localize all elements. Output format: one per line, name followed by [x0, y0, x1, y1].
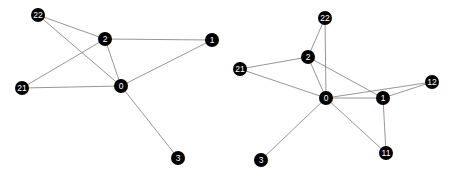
- edges-layer: [22, 15, 432, 160]
- graph-edge: [38, 15, 105, 39]
- graph-edge: [240, 69, 326, 98]
- graph-node[interactable]: 3: [254, 153, 268, 167]
- graph-node[interactable]: 2: [98, 32, 112, 46]
- graph-node[interactable]: 3: [171, 151, 185, 165]
- graph-edge: [240, 57, 308, 69]
- graph-edge: [121, 86, 178, 158]
- graph-node[interactable]: 0: [319, 91, 333, 105]
- graph-canvas: 22212103222211201113: [0, 0, 457, 176]
- node-circle[interactable]: [98, 32, 112, 46]
- network-graph-figure: 22212103222211201113: [0, 0, 457, 176]
- node-circle[interactable]: [233, 62, 247, 76]
- node-circle[interactable]: [31, 8, 45, 22]
- graph-node[interactable]: 0: [114, 79, 128, 93]
- graph-edge: [105, 39, 212, 40]
- node-circle[interactable]: [319, 91, 333, 105]
- graph-edge: [383, 98, 386, 153]
- node-circle[interactable]: [171, 151, 185, 165]
- right-graph-nodes: 222211201113: [233, 11, 439, 167]
- graph-node[interactable]: 11: [379, 146, 393, 160]
- node-circle[interactable]: [376, 91, 390, 105]
- node-circle[interactable]: [15, 81, 29, 95]
- right-graph-edges: [240, 18, 432, 160]
- left-graph-nodes: 22212103: [15, 8, 219, 165]
- graph-node[interactable]: 22: [318, 11, 332, 25]
- node-circle[interactable]: [379, 146, 393, 160]
- graph-node[interactable]: 22: [31, 8, 45, 22]
- graph-edge: [261, 98, 326, 160]
- graph-edge: [308, 57, 383, 98]
- graph-node[interactable]: 1: [205, 33, 219, 47]
- graph-edge: [121, 40, 212, 86]
- graph-node[interactable]: 1: [376, 91, 390, 105]
- node-circle[interactable]: [425, 75, 439, 89]
- node-circle[interactable]: [254, 153, 268, 167]
- graph-edge: [326, 98, 386, 153]
- graph-node[interactable]: 21: [15, 81, 29, 95]
- graph-edge: [22, 39, 105, 88]
- graph-node[interactable]: 2: [301, 50, 315, 64]
- graph-node[interactable]: 12: [425, 75, 439, 89]
- graph-edge: [383, 82, 432, 98]
- graph-edge: [325, 18, 326, 98]
- node-circle[interactable]: [205, 33, 219, 47]
- graph-node[interactable]: 21: [233, 62, 247, 76]
- graph-edge: [22, 86, 121, 88]
- node-circle[interactable]: [114, 79, 128, 93]
- node-circle[interactable]: [318, 11, 332, 25]
- node-circle[interactable]: [301, 50, 315, 64]
